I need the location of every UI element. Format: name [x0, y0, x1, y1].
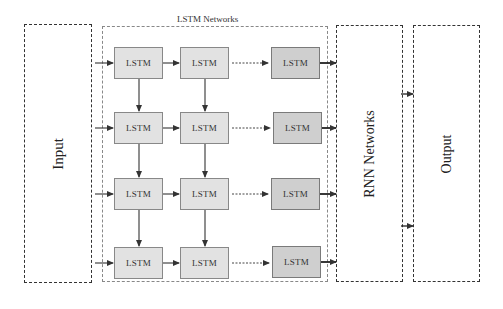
- connector-arrows: [0, 0, 503, 309]
